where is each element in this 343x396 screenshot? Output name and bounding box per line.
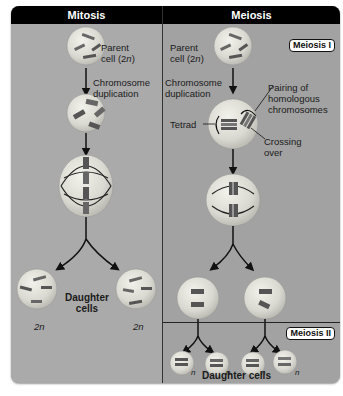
tetrad-label: Tetrad	[170, 119, 196, 130]
meiosis-duplication-label: Chromosome duplication	[165, 77, 222, 99]
meiosis-ii-badge: Meiosis II	[286, 327, 335, 340]
meiosis-panel: Meiosis Meiosis I	[162, 6, 340, 383]
metaphase-i-cell	[206, 174, 260, 226]
meiosis-i-daughter-left	[177, 277, 219, 319]
duplicated-cell	[67, 94, 106, 132]
meiosis-parent-label: Parent cell (2n)	[170, 42, 204, 64]
diagram-frame: Mitosis	[11, 6, 340, 383]
mitosis-duplication-label: Chromosome duplication	[93, 77, 150, 99]
mitosis-parent-label: Parent cell (2n)	[101, 42, 135, 64]
meiosis-daughter-label: Daughter cells	[163, 370, 340, 381]
daughter-cell-right	[116, 269, 156, 309]
crossing-over-label: Crossing over	[264, 136, 302, 158]
mitosis-panel: Mitosis	[11, 6, 162, 383]
ploidy-right: 2n	[133, 321, 144, 332]
pairing-label: Pairing of homologous chromosomes	[268, 82, 328, 115]
metaphase-cell	[59, 155, 113, 217]
meiosis-i-daughter-right	[244, 277, 286, 319]
daughter-cell-left	[17, 269, 57, 309]
meiosis-parent-cell	[214, 27, 252, 65]
mitosis-daughter-label: Daughter cells	[65, 292, 109, 314]
meiosis-ii-divider	[163, 322, 340, 323]
ploidy-left: 2n	[34, 321, 45, 332]
parent-cell	[67, 27, 105, 65]
